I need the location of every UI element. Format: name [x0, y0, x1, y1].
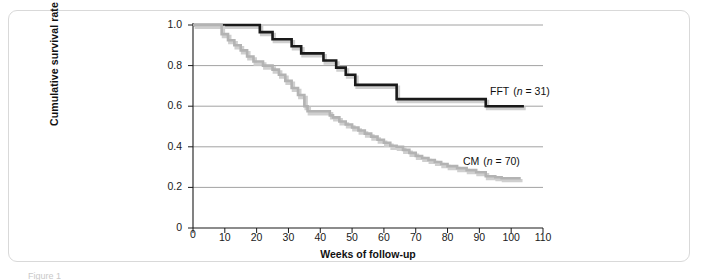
tick-marks	[188, 25, 543, 233]
x-tick-label: 100	[496, 231, 526, 243]
series-shadow	[195, 27, 526, 108]
series-label-cm-paren-close: )	[516, 155, 520, 167]
y-tick-label: 1.0	[148, 18, 182, 30]
y-tick-label: 0	[148, 221, 182, 233]
y-tick-label: 0.6	[148, 99, 182, 111]
survival-chart: 00.20.40.60.81.0 01020304050607080901001…	[0, 0, 701, 280]
series-label-fft: FFT(n = 31)	[490, 85, 550, 97]
y-tick-label: 0.4	[148, 140, 182, 152]
x-tick-label: 30	[273, 231, 303, 243]
y-axis-title: Cumulative survival rate	[48, 0, 60, 164]
x-tick-label: 90	[464, 231, 494, 243]
series-label-fft-value: 31	[535, 85, 547, 97]
x-tick-label: 40	[305, 231, 335, 243]
x-tick-label: 0	[178, 228, 208, 240]
x-tick-label: 10	[210, 231, 240, 243]
x-tick-label: 60	[369, 231, 399, 243]
series-label-cm: CM(n = 70)	[463, 155, 520, 167]
x-tick-label: 80	[433, 231, 463, 243]
figure-caption: Figure 1	[28, 271, 61, 280]
series-label-cm-name: CM	[463, 155, 479, 167]
x-axis-title: Weeks of follow-up	[193, 248, 543, 260]
series-label-fft-name: FFT	[490, 85, 509, 97]
x-tick-label: 70	[401, 231, 431, 243]
series-label-fft-paren-close: )	[546, 85, 550, 97]
series-label-cm-equals: =	[493, 155, 505, 167]
y-tick-label: 0.2	[148, 180, 182, 192]
series-label-cm-value: 70	[505, 155, 517, 167]
x-tick-label: 110	[528, 231, 558, 243]
x-tick-label: 20	[242, 231, 272, 243]
x-tick-label: 50	[337, 231, 367, 243]
series-label-fft-equals: =	[523, 85, 535, 97]
y-tick-label: 0.8	[148, 59, 182, 71]
